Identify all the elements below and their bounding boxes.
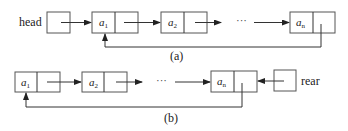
node-an: an xyxy=(211,71,257,92)
rear-label: rear xyxy=(301,74,320,88)
caption-b: (b) xyxy=(164,111,178,125)
caption-a: (a) xyxy=(170,49,183,63)
diagram-a: head a1 a2 ··· an (a) xyxy=(19,12,335,63)
head-label: head xyxy=(19,15,42,29)
ellipsis: ··· xyxy=(236,14,247,26)
ellipsis: ··· xyxy=(156,74,167,86)
circular-linked-list-diagram: head a1 a2 ··· an (a) a1 xyxy=(0,0,348,131)
diagram-b: a1 a2 ··· an rear (b) xyxy=(15,70,320,125)
node-an: an xyxy=(290,12,335,33)
